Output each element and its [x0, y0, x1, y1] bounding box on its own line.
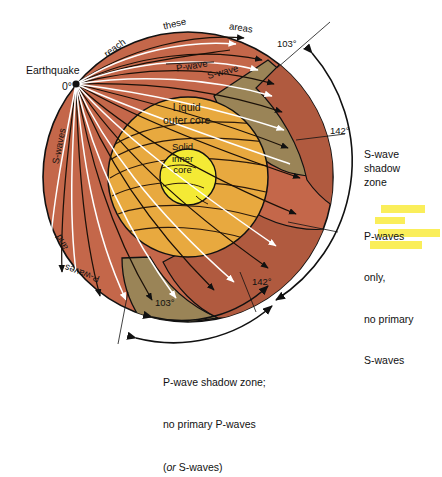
p-waves-only-line-1: P-waves: [364, 230, 414, 244]
p-waves-only-line-4: S-waves: [364, 354, 414, 368]
p-waves-only-line-3: no primary: [364, 313, 414, 327]
caption-or-italic: or: [167, 461, 176, 473]
p-waves-only-annotation: P-waves only, no primary S-waves: [364, 202, 414, 382]
liquid-outer-core-label: Liquid outer core: [163, 101, 210, 128]
solid-inner-core-label: Solid inner core: [172, 141, 193, 176]
earthquake-focus-point: [72, 80, 79, 87]
caption-line-3-rest: S-waves): [176, 461, 223, 473]
focus-angle-label: 0°: [62, 80, 72, 93]
caption-line-1: P-wave shadow zone;: [163, 375, 266, 389]
earthquake-label: Earthquake: [26, 64, 80, 77]
s-wave-shadow-zone-annotation: S-wave shadow zone: [364, 148, 400, 190]
angle-label-top-right: 103°: [277, 38, 297, 50]
p-waves-only-line-2: only,: [364, 271, 414, 285]
p-wave-shadow-zone-caption: P-wave shadow zone; no primary P-waves (…: [163, 347, 266, 477]
angle-label-mid-right: 142°: [330, 125, 350, 137]
angle-label-bottom-left: 103°: [155, 297, 175, 309]
caption-line-3: (or S-waves): [163, 460, 266, 474]
angle-label-bottom-right: 142°: [252, 276, 272, 288]
caption-line-2: no primary P-waves: [163, 417, 266, 431]
